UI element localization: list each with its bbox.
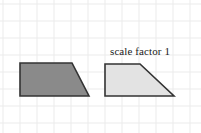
scale-factor-label: scale factor 1: [110, 46, 170, 57]
figures-layer: [0, 0, 201, 133]
geometry-canvas: scale factor 1: [0, 0, 201, 133]
scaled-shape[interactable]: [105, 64, 174, 96]
original-shape[interactable]: [20, 63, 89, 96]
